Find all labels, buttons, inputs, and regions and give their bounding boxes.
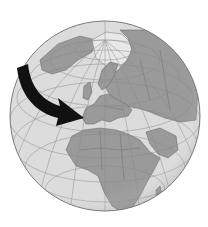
globe-shading <box>10 21 200 211</box>
globe-illustration: Globe centered on Europe and Africa with… <box>0 0 208 227</box>
globe-svg <box>0 0 208 227</box>
